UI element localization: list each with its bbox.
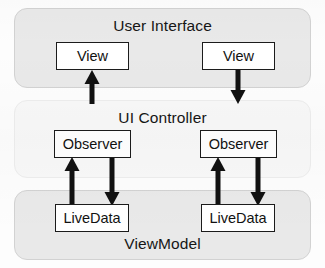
diagram-canvas: User InterfaceUI ControllerViewModel Vie… (0, 0, 325, 268)
node-label-livedata-left: LiveData (63, 210, 120, 226)
node-label-view-right: View (223, 48, 254, 64)
node-livedata-right: LiveData (201, 204, 275, 232)
node-label-observer-right: Observer (209, 136, 269, 152)
node-livedata-left: LiveData (55, 204, 129, 232)
node-label-view-left: View (77, 48, 108, 64)
layer-title-user-interface: User Interface (15, 17, 310, 35)
node-observer-left: Observer (54, 130, 131, 158)
layer-title-ui-controller: UI Controller (15, 109, 310, 127)
node-view-left: View (56, 42, 129, 70)
node-observer-right: Observer (200, 130, 277, 158)
node-view-right: View (202, 42, 275, 70)
layer-title-view-model: ViewModel (15, 235, 310, 253)
node-label-livedata-right: LiveData (209, 210, 266, 226)
node-label-observer-left: Observer (63, 136, 123, 152)
